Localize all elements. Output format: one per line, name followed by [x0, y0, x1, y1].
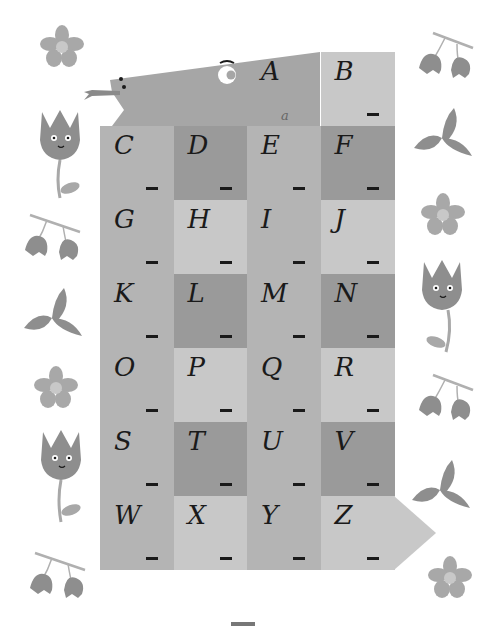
- letter-cell-k: K: [100, 274, 174, 348]
- answer-blank[interactable]: [146, 261, 158, 264]
- uppercase-letter: X: [188, 502, 207, 528]
- letter-cell-i: I: [247, 200, 321, 274]
- flower-icon: [428, 556, 472, 598]
- tulip-icon: [40, 110, 81, 198]
- uppercase-letter: D: [188, 132, 209, 158]
- answer-blank[interactable]: [146, 409, 158, 412]
- answer-blank[interactable]: [367, 261, 379, 264]
- leaves-icon: [414, 108, 472, 156]
- letter-cell-b: B: [321, 52, 395, 126]
- tulip-icon: [41, 430, 82, 522]
- uppercase-letter: I: [261, 206, 271, 232]
- leaves-icon: [412, 460, 470, 508]
- letter-cell-t: T: [174, 422, 248, 496]
- uppercase-letter: Q: [261, 354, 282, 380]
- answer-blank[interactable]: [293, 409, 305, 412]
- uppercase-letter: G: [114, 206, 135, 232]
- left-decorations: [0, 0, 100, 628]
- uppercase-letter: V: [335, 428, 354, 454]
- answer-blank[interactable]: [367, 483, 379, 486]
- tulip-icon: [422, 260, 462, 352]
- letter-cell-o: O: [100, 348, 174, 422]
- answer-blank[interactable]: [293, 557, 305, 560]
- page-marker: [231, 622, 255, 626]
- letter-cell-q: Q: [247, 348, 321, 422]
- answer-blank[interactable]: [293, 187, 305, 190]
- answer-blank[interactable]: [367, 113, 379, 116]
- uppercase-letter: H: [188, 206, 211, 232]
- alphabet-worksheet: a ABCDEFGHIJKLMNOPQRSTUVWXYZ: [0, 0, 500, 628]
- leaves-icon: [24, 288, 82, 336]
- berries-icon: [419, 33, 473, 78]
- letter-cell-l: L: [174, 274, 248, 348]
- letter-cell-z: Z: [321, 496, 395, 570]
- letter-cell-a: A: [247, 52, 321, 126]
- berries-icon: [30, 553, 85, 598]
- answer-blank[interactable]: [220, 187, 232, 190]
- letter-cell-h: H: [174, 200, 248, 274]
- letter-cell-n: N: [321, 274, 395, 348]
- letter-cell-e: E: [247, 126, 321, 200]
- flower-icon: [40, 25, 84, 67]
- answer-blank[interactable]: [367, 335, 379, 338]
- letter-cell-u: U: [247, 422, 321, 496]
- answer-blank[interactable]: [367, 557, 379, 560]
- letter-cell-p: P: [174, 348, 248, 422]
- flower-icon: [421, 193, 465, 235]
- uppercase-letter: K: [114, 280, 133, 306]
- letter-cell-v: V: [321, 422, 395, 496]
- berries-icon: [419, 375, 473, 420]
- letter-cell-m: M: [247, 274, 321, 348]
- letter-cell-j: J: [321, 200, 395, 274]
- answer-blank[interactable]: [146, 335, 158, 338]
- uppercase-letter: L: [188, 280, 205, 306]
- uppercase-letter: S: [114, 428, 132, 454]
- uppercase-letter: Z: [335, 502, 353, 528]
- uppercase-letter: O: [114, 354, 135, 380]
- answer-blank[interactable]: [220, 335, 232, 338]
- uppercase-letter: U: [261, 428, 283, 454]
- uppercase-letter: W: [114, 502, 141, 528]
- uppercase-letter: T: [188, 428, 205, 454]
- uppercase-letter: F: [335, 132, 353, 158]
- uppercase-letter: A: [261, 58, 280, 84]
- answer-blank[interactable]: [220, 483, 232, 486]
- answer-blank[interactable]: [146, 187, 158, 190]
- uppercase-letter: P: [188, 354, 206, 380]
- letter-cell-x: X: [174, 496, 248, 570]
- answer-blank[interactable]: [293, 335, 305, 338]
- answer-blank[interactable]: [293, 261, 305, 264]
- letter-cell-r: R: [321, 348, 395, 422]
- letter-cell-y: Y: [247, 496, 321, 570]
- flower-icon: [34, 366, 78, 408]
- uppercase-letter: E: [261, 132, 280, 158]
- answer-blank[interactable]: [220, 261, 232, 264]
- letter-cell-w: W: [100, 496, 174, 570]
- answer-blank[interactable]: [293, 483, 305, 486]
- uppercase-letter: B: [335, 58, 354, 84]
- uppercase-letter: C: [114, 132, 134, 158]
- uppercase-letter: J: [335, 206, 345, 232]
- answer-blank[interactable]: [146, 483, 158, 486]
- uppercase-letter: M: [261, 280, 288, 306]
- right-decorations: [400, 0, 500, 628]
- letter-cell-c: C: [100, 126, 174, 200]
- answer-blank[interactable]: [367, 187, 379, 190]
- uppercase-letter: Y: [261, 502, 278, 528]
- berries-icon: [25, 215, 80, 260]
- answer-blank[interactable]: [146, 557, 158, 560]
- letter-cell-f: F: [321, 126, 395, 200]
- letter-cell-s: S: [100, 422, 174, 496]
- uppercase-letter: R: [335, 354, 355, 380]
- uppercase-letter: N: [335, 280, 358, 306]
- letter-cell-g: G: [100, 200, 174, 274]
- answer-blank[interactable]: [220, 557, 232, 560]
- answer-blank[interactable]: [367, 409, 379, 412]
- answer-blank[interactable]: [220, 409, 232, 412]
- letter-cell-d: D: [174, 126, 248, 200]
